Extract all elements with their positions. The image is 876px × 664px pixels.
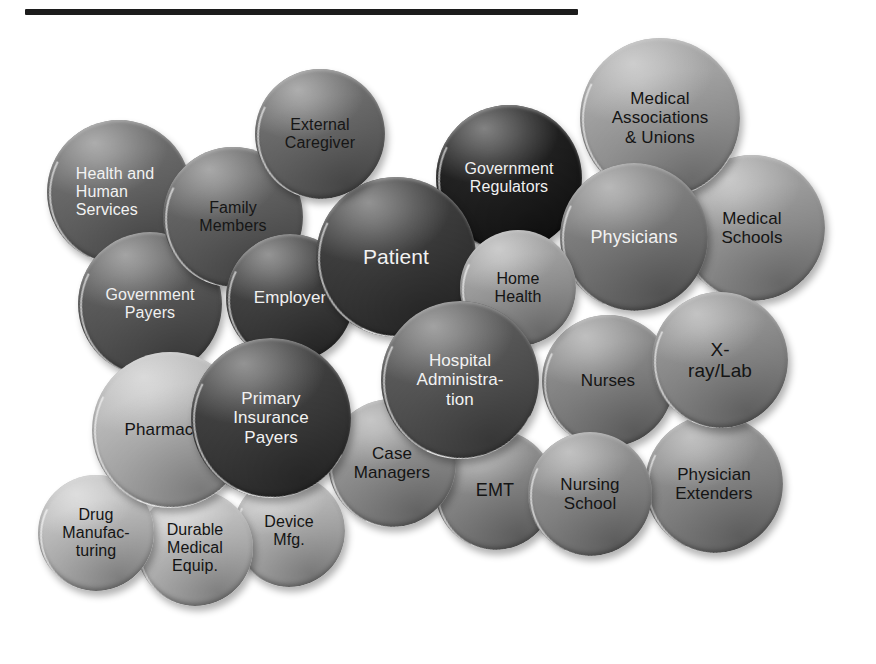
bubble-physician-extenders[interactable]: Physician Extenders (645, 415, 783, 553)
bubble-label: Primary Insurance Payers (227, 389, 315, 446)
bubble-label: Home Health (489, 270, 548, 306)
bubble-external-caregiver[interactable]: External Caregiver (255, 69, 385, 199)
bubble-label: Nursing School (554, 475, 625, 513)
bubble-label: Government Payers (99, 286, 200, 322)
bubble-label: Patient (357, 245, 435, 269)
bubble-label: X- ray/Lab (682, 339, 758, 382)
bubble-label: Government Regulators (458, 160, 559, 196)
bubble-label: Hospital Administra- tion (410, 351, 509, 408)
diagram-canvas: Health and Human ServicesExternal Caregi… (0, 0, 876, 664)
bubble-label: Device Mfg. (258, 513, 320, 549)
bubble-label: Family Members (193, 199, 272, 235)
bubble-label: Medical Schools (715, 209, 788, 247)
bubble-durable-medical-equip[interactable]: Durable Medical Equip. (137, 490, 253, 606)
bubble-label: EMT (470, 480, 520, 500)
bubble-physicians[interactable]: Physicians (560, 163, 708, 311)
bubble-label: Nurses (575, 371, 641, 390)
bubble-label: Durable Medical Equip. (161, 521, 230, 575)
bubble-label: Medical Associations & Unions (606, 89, 715, 146)
bubble-x-ray-lab[interactable]: X- ray/Lab (652, 292, 788, 428)
bubble-label: Physician Extenders (669, 465, 758, 503)
bubble-hospital-administration[interactable]: Hospital Administra- tion (381, 301, 539, 459)
bubble-label: Drug Manufac- turing (56, 506, 136, 560)
bubble-label: Physicians (584, 227, 683, 247)
bubble-label: Employer (248, 288, 333, 307)
bubble-nursing-school[interactable]: Nursing School (528, 432, 652, 556)
title-rule (25, 9, 578, 15)
bubble-primary-insurance-payers[interactable]: Primary Insurance Payers (191, 338, 351, 498)
bubble-label: External Caregiver (279, 116, 361, 152)
bubble-nurses[interactable]: Nurses (542, 315, 674, 447)
